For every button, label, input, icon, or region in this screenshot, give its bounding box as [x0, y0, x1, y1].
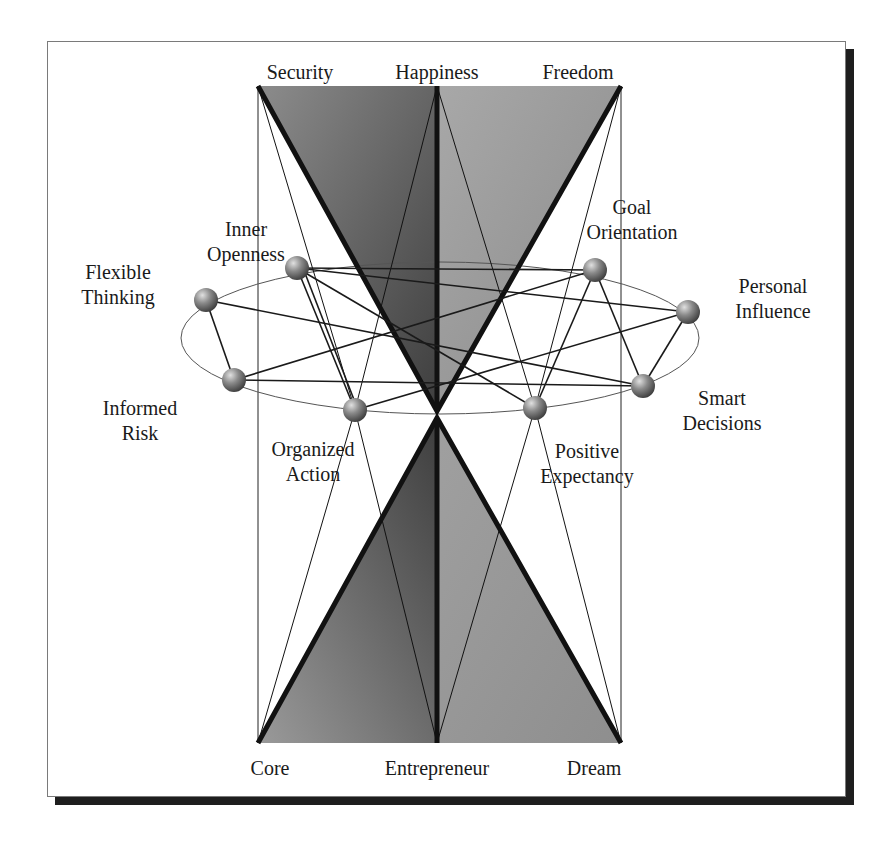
label-flexible-thinking-2: Thinking — [81, 286, 154, 309]
node-informed-risk — [222, 368, 246, 392]
label-smart-decisions-2: Decisions — [683, 412, 762, 434]
label-inner-openness-1: Inner — [225, 218, 268, 240]
label-entrepreneur: Entrepreneur — [385, 757, 490, 780]
label-core: Core — [251, 757, 290, 779]
label-dream: Dream — [567, 757, 622, 779]
label-organized-action-2: Action — [286, 463, 340, 485]
node-organized-action — [343, 398, 367, 422]
label-personal-influence-2: Influence — [735, 300, 811, 322]
node-smart-decisions — [631, 374, 655, 398]
node-positive-expectancy — [523, 396, 547, 420]
node-personal-influence — [676, 300, 700, 324]
label-positive-expectancy-2: Expectancy — [540, 465, 633, 488]
label-goal-orientation-1: Goal — [613, 196, 652, 218]
node-goal-orientation — [583, 258, 607, 282]
label-freedom: Freedom — [542, 61, 614, 83]
entrepreneur-diagram: Security Happiness Freedom Core Entrepre… — [0, 0, 894, 847]
node-flexible-thinking — [194, 288, 218, 312]
label-security: Security — [267, 61, 334, 84]
label-personal-influence-1: Personal — [739, 275, 808, 297]
label-flexible-thinking-1: Flexible — [85, 261, 151, 283]
triangle-outlines — [258, 86, 621, 743]
label-goal-orientation-2: Orientation — [586, 221, 677, 243]
label-inner-openness-2: Openness — [207, 243, 285, 266]
node-inner-openness — [285, 256, 309, 280]
label-happiness: Happiness — [395, 61, 479, 84]
label-informed-risk-2: Risk — [122, 422, 159, 444]
label-smart-decisions-1: Smart — [698, 387, 746, 409]
label-positive-expectancy-1: Positive — [555, 440, 620, 462]
label-organized-action-1: Organized — [272, 438, 355, 461]
label-informed-risk-1: Informed — [103, 397, 177, 419]
